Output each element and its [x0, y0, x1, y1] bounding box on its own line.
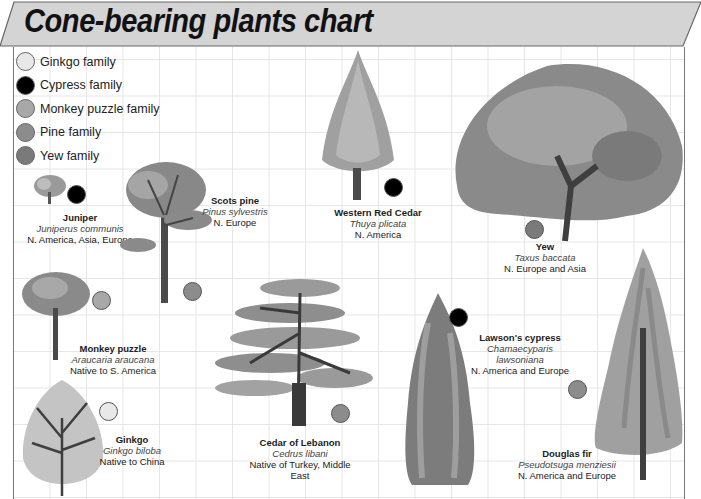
ginkgo-family-dot-icon: [16, 52, 35, 71]
cedar-of-lebanon-label: Cedar of Lebanon Cedrus libani Native of…: [240, 437, 360, 481]
legend-label: Monkey puzzle family: [40, 102, 160, 116]
plant-scientific-name: Chamaecyparis: [465, 343, 575, 354]
scots-pine-label: Scots pine Pinus sylvestris N. Europe: [195, 195, 275, 228]
plant-range: Native to S. America: [58, 365, 168, 376]
plant-scientific-name: Araucaria araucana: [58, 354, 168, 365]
lawsons-cypress-family-dot-icon: [449, 308, 468, 327]
ginkgo-family-dot-icon: [99, 402, 118, 421]
cypress-family-dot-icon: [16, 76, 35, 95]
juniper-tree-illustration: [32, 172, 68, 206]
plant-scientific-name-cont: lawsoniana: [465, 354, 575, 365]
plant-name: Cedar of Lebanon: [240, 437, 360, 448]
yew-tree-illustration: [447, 56, 687, 246]
legend-item-pine: Pine family: [16, 121, 160, 145]
cedar-of-lebanon-tree-illustration: [210, 273, 375, 428]
scots-pine-tree-illustration: [118, 160, 216, 305]
plant-name: Douglas fir: [512, 448, 622, 459]
plant-scientific-name: Pseudotsuga menziesii: [512, 459, 622, 470]
plant-range-cont: East: [240, 470, 360, 481]
douglas-fir-family-dot-icon: [568, 380, 587, 399]
plant-range: N. Europe and Asia: [495, 263, 595, 274]
legend-item-cypress: Cypress family: [16, 74, 160, 98]
legend-label: Pine family: [40, 125, 101, 139]
lawsons-cypress-label: Lawson's cypress Chamaecyparis lawsonian…: [465, 332, 575, 376]
plant-scientific-name: Ginkgo biloba: [92, 445, 172, 456]
plant-name: Monkey puzzle: [58, 343, 168, 354]
plant-name: Scots pine: [195, 195, 275, 206]
legend-item-ginkgo: Ginkgo family: [16, 50, 160, 74]
plant-range: N. Europe: [195, 217, 275, 228]
plant-range: N. America and Europe: [465, 365, 575, 376]
legend-label: Yew family: [40, 149, 99, 163]
plant-scientific-name: Thuya plicata: [328, 218, 428, 229]
plant-name: Ginkgo: [92, 434, 172, 445]
plant-name: Western Red Cedar: [328, 207, 428, 218]
yew-family-dot-icon: [525, 220, 544, 239]
monkey-puzzle-family-dot-icon: [16, 99, 35, 118]
western-red-cedar-tree-illustration: [318, 50, 398, 202]
plant-scientific-name: Taxus baccata: [495, 252, 595, 263]
plant-scientific-name: Cedrus libani: [240, 448, 360, 459]
plant-range: N. America and Europe: [512, 470, 622, 481]
western-red-cedar-label: Western Red Cedar Thuya plicata N. Ameri…: [328, 207, 428, 240]
legend-label: Cypress family: [40, 78, 122, 92]
scots-pine-family-dot-icon: [183, 282, 202, 301]
plant-name: Lawson's cypress: [465, 332, 575, 343]
juniper-family-dot-icon: [67, 185, 86, 204]
legend: Ginkgo family Cypress family Monkey puzz…: [16, 50, 160, 168]
ginkgo-label: Ginkgo Ginkgo biloba Native to China: [92, 434, 172, 467]
lawsons-cypress-tree-illustration: [398, 293, 480, 489]
western-red-cedar-family-dot-icon: [384, 178, 403, 197]
legend-label: Ginkgo family: [40, 55, 116, 69]
page-title: Cone-bearing plants chart: [24, 2, 373, 40]
pine-family-dot-icon: [16, 123, 35, 142]
plant-range: Native of Turkey, Middle: [240, 459, 360, 470]
monkey-puzzle-label: Monkey puzzle Araucaria araucana Native …: [58, 343, 168, 376]
yew-family-dot-icon: [16, 146, 35, 165]
title-banner: Cone-bearing plants chart: [0, 0, 701, 48]
douglas-fir-label: Douglas fir Pseudotsuga menziesii N. Ame…: [512, 448, 622, 481]
cedar-of-lebanon-family-dot-icon: [331, 404, 350, 423]
monkey-puzzle-family-dot-icon: [92, 291, 111, 310]
legend-item-monkey-puzzle: Monkey puzzle family: [16, 97, 160, 121]
plant-name: Yew: [495, 241, 595, 252]
plant-scientific-name: Pinus sylvestris: [195, 206, 275, 217]
plant-range: Native to China: [92, 456, 172, 467]
yew-label: Yew Taxus baccata N. Europe and Asia: [495, 241, 595, 274]
plant-range: N. America: [328, 229, 428, 240]
